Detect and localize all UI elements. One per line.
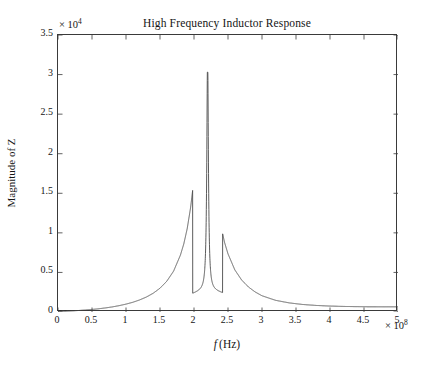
x-tick-label: 0.5 <box>85 314 98 325</box>
x-axis-tick-labels: 00.511.522.533.544.55 <box>57 314 397 328</box>
y-tick-label: 0.5 <box>41 264 54 275</box>
y-tick-label: 0 <box>48 304 53 315</box>
x-tick-label: 1.5 <box>153 314 166 325</box>
y-tick-label: 1.5 <box>41 185 54 196</box>
y-tick-label: 2 <box>48 146 53 157</box>
y-tick-label: 2.5 <box>41 106 54 117</box>
x-axis-title-unit: (Hz) <box>219 338 240 350</box>
x-tick-label: 3 <box>259 314 264 325</box>
plot-area <box>57 34 397 311</box>
x-tick-label: 3.5 <box>289 314 302 325</box>
x-tick-label: 4.5 <box>357 314 370 325</box>
x-axis-title: f(Hz) <box>57 338 397 350</box>
y-axis-tick-labels: 00.511.522.533.5 <box>20 34 53 311</box>
y-axis-title-text: Magnitude of Z <box>5 138 17 207</box>
x-tick-label: 5 <box>395 314 400 325</box>
y-axis-exponent-power: 4 <box>78 17 82 26</box>
figure-canvas: High Frequency Inductor Response × 104 ×… <box>0 0 427 365</box>
plot-svg <box>58 35 398 312</box>
x-axis-title-symbol: f <box>214 338 217 350</box>
x-tick-label: 1 <box>123 314 128 325</box>
x-axis-exponent-power: 8 <box>404 318 408 327</box>
tick-marks <box>58 35 398 312</box>
x-tick-label: 0 <box>55 314 60 325</box>
x-tick-label: 4 <box>327 314 332 325</box>
x-tick-label: 2 <box>191 314 196 325</box>
impedance-magnitude-curve <box>58 72 398 311</box>
y-tick-label: 1 <box>48 225 53 236</box>
y-tick-label: 3.5 <box>41 27 54 38</box>
y-tick-label: 3 <box>48 67 53 78</box>
chart-title: High Frequency Inductor Response <box>57 17 397 29</box>
y-axis-exponent-label: × 104 <box>59 19 82 30</box>
y-axis-exponent-mantissa: × 10 <box>59 19 78 30</box>
y-axis-title: Magnitude of Z <box>3 34 19 311</box>
x-tick-label: 2.5 <box>221 314 234 325</box>
